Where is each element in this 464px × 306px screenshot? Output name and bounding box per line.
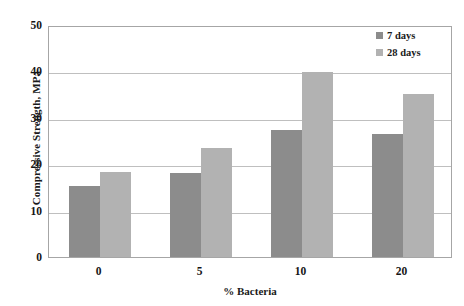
legend-swatch-icon bbox=[376, 49, 383, 56]
x-tick-label: 10 bbox=[250, 266, 351, 278]
bar bbox=[100, 172, 131, 257]
y-tick-label: 50 bbox=[16, 20, 42, 32]
bar-chart: Compressive Strength, MPa 01020304050 05… bbox=[0, 0, 464, 306]
bars-layer bbox=[49, 27, 451, 257]
x-axis-title: % Bacteria bbox=[48, 285, 452, 297]
legend-label: 28 days bbox=[387, 47, 421, 58]
chart-legend: 7 days28 days bbox=[376, 27, 448, 61]
x-tick-label: 20 bbox=[351, 266, 452, 278]
x-tick-label: 0 bbox=[48, 266, 149, 278]
legend-label: 7 days bbox=[387, 30, 415, 41]
legend-item: 28 days bbox=[376, 44, 448, 61]
bar bbox=[302, 72, 333, 257]
bar bbox=[69, 186, 100, 257]
bar bbox=[271, 130, 302, 257]
y-tick-label: 10 bbox=[16, 206, 42, 218]
legend-item: 7 days bbox=[376, 27, 448, 44]
y-tick-label: 40 bbox=[16, 66, 42, 78]
y-tick-label: 30 bbox=[16, 113, 42, 125]
bar bbox=[201, 148, 232, 257]
legend-swatch-icon bbox=[376, 32, 383, 39]
bar bbox=[170, 173, 201, 257]
y-tick-label: 0 bbox=[16, 252, 42, 264]
bar bbox=[372, 134, 403, 257]
y-axis-tick-labels: 01020304050 bbox=[14, 0, 42, 306]
x-tick-label: 5 bbox=[149, 266, 250, 278]
y-tick-label: 20 bbox=[16, 159, 42, 171]
bar bbox=[403, 94, 434, 257]
